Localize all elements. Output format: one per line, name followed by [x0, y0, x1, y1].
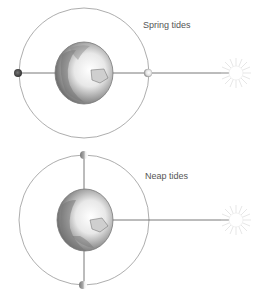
- earth-icon: [55, 42, 113, 104]
- tides-diagram: [0, 0, 266, 308]
- neap-tides-diagram: [19, 151, 251, 289]
- spring-tides-label: Spring tides: [143, 20, 191, 30]
- moon-near-side-icon: [144, 69, 152, 77]
- sun-icon: [221, 58, 251, 88]
- sun-icon: [221, 205, 251, 235]
- moon-top-icon: [80, 151, 88, 159]
- moon-far-side-icon: [14, 69, 22, 77]
- earth-icon: [57, 189, 113, 251]
- spring-tides-diagram: [14, 8, 251, 138]
- neap-tides-label: Neap tides: [145, 171, 188, 181]
- moon-bottom-icon: [79, 281, 87, 289]
